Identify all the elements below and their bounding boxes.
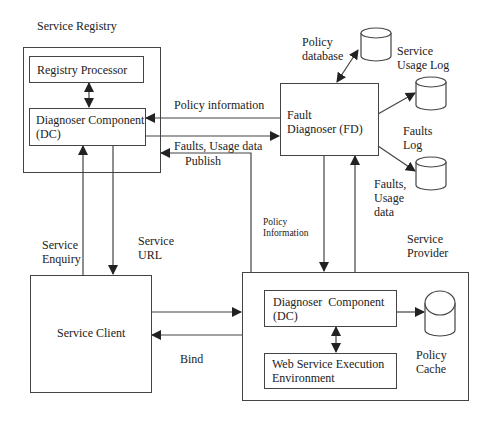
provider-dc-text: Diagnoser Component [273,295,384,309]
registry-processor-box: Registry Processor [29,56,144,83]
faults-log-label-2: Log [403,138,422,152]
policy-database-label-2: database [302,49,343,63]
registry-dc-box: Diagnoser Component (DC) [29,108,146,146]
publish-label: Publish [185,154,221,168]
service-usage-log-label-2: Usage Log [397,58,449,72]
service-provider-title-1: Service [407,232,443,246]
service-enquiry-label-1: Service [42,238,78,252]
architecture-diagram: Service Registry Registry Processor Diag… [0,0,493,423]
faults-usage-data-right-label-1: Faults, [374,177,406,191]
bind-label: Bind [180,352,203,366]
wsee-label-1: Web Service Execution [272,357,384,371]
faults-log-cylinder-icon [416,157,446,190]
provider-dc-label-1: Diagnoser Component [273,295,384,309]
faults-log-label-1: Faults [403,124,432,138]
fault-diagnoser-box: Fault Diagnoser (FD) [280,83,379,156]
service-usage-log-cylinder-icon [416,77,446,110]
wsee-box: Web Service Execution Environment [264,353,397,389]
service-client-box: Service Client [30,275,152,393]
policy-cache-label-2: Cache [416,362,446,376]
policy-database-cylinder-icon [361,28,391,61]
wsee-label-2: Environment [272,371,335,385]
registry-dc-label-1: Diagnoser Component [36,113,144,127]
policy-information-small-label-2: Information [263,228,308,239]
policy-database-label-1: Policy [302,35,333,49]
policy-cache-label-1: Policy [416,348,447,362]
provider-dc-box: Diagnoser Component (DC) [264,290,397,327]
registry-processor-label: Registry Processor [37,63,127,77]
service-registry-title: Service Registry [37,19,117,33]
service-url-label-2: URL [138,248,162,262]
faults-usage-data-right-label-2: Usage [374,191,404,205]
fault-diagnoser-label-2: Diagnoser (FD) [287,122,363,136]
registry-dc-label-2: (DC) [36,127,61,141]
policy-information-label: Policy information [174,98,264,112]
service-enquiry-label-2: Enquiry [42,252,81,266]
service-client-label: Service Client [57,326,125,340]
faults-usage-data-label: Faults, Usage data [174,139,262,153]
policy-information-small-label-1: Policy [263,217,287,228]
provider-dc-label-2: (DC) [273,309,298,323]
service-url-label-1: Service [138,234,174,248]
arrow-publish [161,153,251,272]
service-usage-log-label-1: Service [397,44,433,58]
fault-diagnoser-label-1: Fault [287,108,312,122]
service-provider-title-2: Provider [407,246,448,260]
faults-usage-data-right-label-3: data [374,205,394,219]
arrow-fd-usage-log [378,93,415,114]
